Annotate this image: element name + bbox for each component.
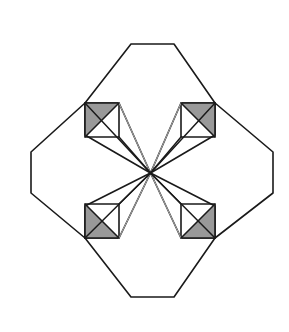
geometric-figure-container <box>0 0 289 332</box>
center-point-dot <box>149 171 152 174</box>
geometric-figure-svg <box>0 0 289 332</box>
